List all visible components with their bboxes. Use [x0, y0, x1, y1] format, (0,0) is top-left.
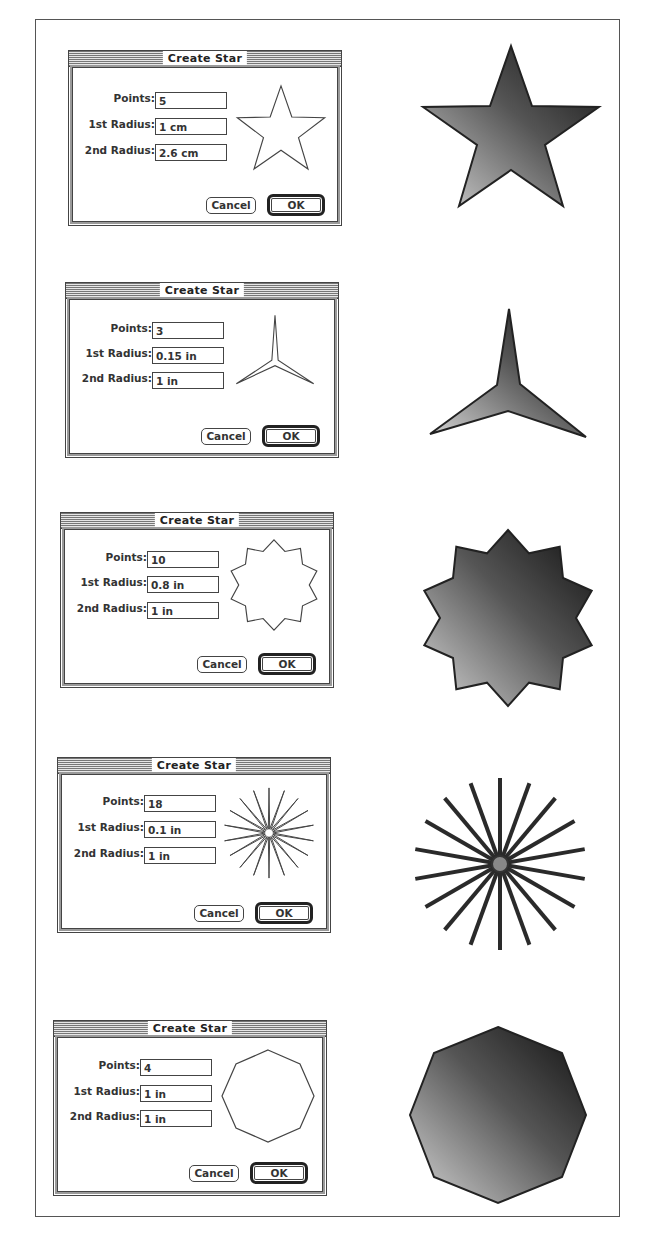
three-point-star-shape: [428, 306, 588, 442]
cancel-button[interactable]: Cancel: [189, 1165, 239, 1182]
first-radius-input[interactable]: 1 cm: [155, 118, 227, 135]
dialog-titlebar[interactable]: Create Star: [58, 758, 330, 774]
star-preview-icon: [225, 536, 323, 634]
dialog-title: Create Star: [148, 1021, 232, 1036]
dialog-body: Points: 18 1st Radius: 0.1 in 2nd Radius…: [61, 774, 327, 929]
create-star-dialog-4: Create Star Points: 18 1st Radius: 0.1 i…: [57, 757, 331, 933]
second-radius-input[interactable]: 2.6 cm: [155, 144, 227, 161]
second-radius-input[interactable]: 1 in: [147, 602, 219, 619]
dialog-titlebar[interactable]: Create Star: [66, 283, 338, 299]
second-radius-label: 2nd Radius:: [85, 144, 155, 156]
dialog-titlebar[interactable]: Create Star: [61, 513, 333, 529]
points-label: Points:: [106, 551, 147, 563]
dialog-title: Create Star: [152, 758, 236, 773]
first-radius-label: 1st Radius:: [74, 1085, 140, 1097]
cancel-button[interactable]: Cancel: [197, 656, 247, 673]
cancel-button[interactable]: Cancel: [206, 197, 256, 214]
points-input[interactable]: 5: [155, 92, 227, 109]
points-input[interactable]: 4: [140, 1059, 212, 1076]
star-preview-icon: [230, 312, 320, 396]
points-label: Points:: [111, 322, 152, 334]
dialog-body: Points: 4 1st Radius: 1 in 2nd Radius: 1…: [57, 1037, 323, 1192]
ok-button[interactable]: OK: [255, 902, 313, 924]
second-radius-input[interactable]: 1 in: [144, 847, 216, 864]
five-point-star-shape: [420, 42, 602, 212]
eighteen-point-starburst-shape: [410, 776, 590, 952]
first-radius-label: 1st Radius:: [86, 347, 152, 359]
points-label: Points:: [114, 92, 155, 104]
points-input[interactable]: 18: [144, 795, 216, 812]
second-radius-label: 2nd Radius:: [82, 372, 152, 384]
first-radius-label: 1st Radius:: [78, 821, 144, 833]
first-radius-input[interactable]: 1 in: [140, 1085, 212, 1102]
star-preview-icon: [233, 84, 329, 174]
points-label: Points:: [99, 1059, 140, 1071]
second-radius-label: 2nd Radius:: [70, 1110, 140, 1122]
dialog-titlebar[interactable]: Create Star: [54, 1021, 326, 1037]
first-radius-input[interactable]: 0.1 in: [144, 821, 216, 838]
ok-button[interactable]: OK: [267, 194, 325, 216]
ten-point-star-shape: [418, 528, 598, 708]
points-label: Points:: [103, 795, 144, 807]
dialog-body: Points: 10 1st Radius: 0.8 in 2nd Radius…: [64, 529, 330, 684]
first-radius-input[interactable]: 0.15 in: [152, 347, 224, 364]
second-radius-input[interactable]: 1 in: [152, 372, 224, 389]
points-input[interactable]: 3: [152, 322, 224, 339]
dialog-body: Points: 3 1st Radius: 0.15 in 2nd Radius…: [69, 299, 335, 454]
first-radius-label: 1st Radius:: [81, 576, 147, 588]
octagon-preview-icon: [218, 1048, 318, 1144]
first-radius-label: 1st Radius:: [89, 118, 155, 130]
dialog-title: Create Star: [163, 51, 247, 66]
ok-button[interactable]: OK: [262, 425, 320, 447]
second-radius-input[interactable]: 1 in: [140, 1110, 212, 1127]
create-star-dialog-2: Create Star Points: 3 1st Radius: 0.15 i…: [65, 282, 339, 458]
points-input[interactable]: 10: [147, 551, 219, 568]
second-radius-label: 2nd Radius:: [74, 847, 144, 859]
octagon-shape: [405, 1024, 591, 1206]
dialog-body: Points: 5 1st Radius: 1 cm 2nd Radius: 2…: [72, 67, 338, 222]
ok-button[interactable]: OK: [258, 653, 316, 675]
create-star-dialog-3: Create Star Points: 10 1st Radius: 0.8 i…: [60, 512, 334, 688]
cancel-button[interactable]: Cancel: [201, 428, 251, 445]
second-radius-label: 2nd Radius:: [77, 602, 147, 614]
create-star-dialog-1: Create Star Points: 5 1st Radius: 1 cm 2…: [68, 50, 342, 226]
dialog-titlebar[interactable]: Create Star: [69, 51, 341, 67]
cancel-button[interactable]: Cancel: [194, 905, 244, 922]
first-radius-input[interactable]: 0.8 in: [147, 576, 219, 593]
dialog-title: Create Star: [160, 283, 244, 298]
starburst-preview-icon: [220, 784, 318, 882]
ok-button[interactable]: OK: [250, 1162, 308, 1184]
create-star-dialog-5: Create Star Points: 4 1st Radius: 1 in 2…: [53, 1020, 327, 1196]
dialog-title: Create Star: [155, 513, 239, 528]
